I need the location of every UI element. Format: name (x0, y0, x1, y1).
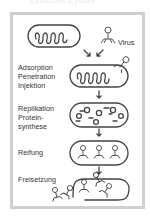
dna-coil-2 (77, 73, 109, 84)
stage-label-replication: Replikation Protein- synthese (18, 104, 54, 131)
stage-label-release: Freisetzung (18, 175, 56, 184)
stage-label-maturation: Reifung (18, 148, 43, 157)
virus-phage (101, 27, 115, 43)
stage-label-adsorption: Adsorption Penetration Injektion (18, 63, 55, 90)
virus-label: Virus (118, 38, 135, 47)
dna-coil-1 (35, 33, 67, 44)
